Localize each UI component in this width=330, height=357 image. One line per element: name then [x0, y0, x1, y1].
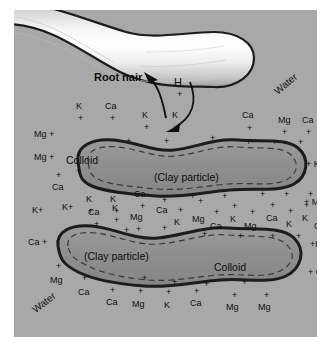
upper-clay-particle [78, 140, 306, 197]
ion-label: Mg [192, 215, 205, 224]
ion-charge-sign: + [308, 190, 313, 199]
ion-charge-sign: + [78, 114, 83, 123]
ion-charge-sign: + [232, 291, 237, 300]
ion-label: Mg + [34, 130, 54, 139]
ion-label: K [112, 204, 118, 213]
ion-charge-sign: + [222, 192, 227, 201]
ion-label: Ca [105, 102, 117, 111]
ion-charge-sign: + [144, 123, 149, 132]
ion-label: K [230, 215, 236, 224]
ion-label: K [302, 214, 308, 223]
ion-charge-sign: + [178, 206, 183, 215]
ion-charge-sign: + [174, 125, 179, 134]
ion-charge-sign: + [270, 201, 275, 210]
ion-charge-sign: + [198, 197, 203, 206]
ion-label: Ca [156, 206, 168, 215]
ion-label: Mg [278, 116, 291, 125]
ion-charge-sign: + [214, 208, 219, 217]
ion-charge-sign: + [190, 192, 195, 201]
ion-label: K [86, 195, 92, 204]
ion-charge-sign: + [272, 138, 277, 147]
hydrogen-charge: + [177, 90, 182, 99]
clay-particle-label-upper: (Clay particle) [154, 172, 219, 183]
ion-charge-sign: + [126, 137, 131, 146]
ion-label: Mg [226, 303, 239, 312]
ion-charge-sign: + [204, 280, 209, 289]
ion-charge-sign: + [166, 288, 171, 297]
ion-charge-sign: + [210, 134, 215, 143]
ion-charge-sign: + [56, 262, 61, 271]
ion-label: Ca [88, 208, 100, 217]
ion-charge-sign: + [260, 190, 265, 199]
ion-charge-sign: + [284, 190, 289, 199]
ion-label: Ca [78, 288, 90, 297]
ion-label: Ca [242, 111, 254, 120]
ion-label: Mg [50, 276, 63, 285]
ion-charge-sign: + [110, 114, 115, 123]
ion-charge-sign: + [140, 202, 145, 211]
ion-label: Ca [106, 298, 118, 307]
root-hair-label: Root hair [94, 72, 142, 83]
ion-label: K [164, 301, 170, 310]
ion-charge-sign: + [306, 128, 311, 137]
ion-charge-sign: + [238, 232, 243, 241]
ion-label: Ca + [28, 238, 47, 247]
ion-label: K [172, 111, 178, 120]
ion-label: K [174, 218, 180, 227]
ion-label: Mg [258, 303, 271, 312]
ion-charge-sign: + [202, 230, 207, 239]
ion-charge-sign: + [94, 220, 99, 229]
ion-charge-sign: + [82, 274, 87, 283]
ion-charge-sign: + [232, 202, 237, 211]
colloid-label-lower: Colloid [214, 262, 246, 273]
clay-particle-label-lower: (Clay particle) [84, 251, 149, 262]
ion-label: K+ [62, 203, 73, 212]
ion-label: Ca [266, 214, 278, 223]
ion-label: Mg [132, 300, 145, 309]
ion-label: Ca [210, 222, 222, 231]
ion-charge-sign: + [136, 225, 141, 234]
ion-label: K [142, 111, 148, 120]
ion-label: Mg [130, 213, 143, 222]
ion-charge-sign: + [162, 196, 167, 205]
ion-charge-sign: + [114, 216, 119, 225]
ion-label: Mg + [34, 153, 54, 162]
soil-diagram-panel: Root hair H + Water Water Colloid (Clay … [14, 10, 317, 337]
ion-charge-sign: + [247, 124, 252, 133]
ion-label: +K [310, 240, 317, 249]
ion-charge-sign: + [110, 286, 115, 295]
ion-charge-sign: + [162, 224, 167, 233]
ion-label: K+ [32, 206, 43, 215]
ion-charge-sign: + [264, 291, 269, 300]
ion-charge-sign: + [194, 287, 199, 296]
ion-charge-sign: + [246, 138, 251, 147]
ion-label: Ca [52, 183, 64, 192]
ion-charge-sign: + [298, 138, 303, 147]
ion-charge-sign: + [172, 278, 177, 287]
ion-label: + Ca [308, 268, 317, 277]
figure-canvas: Root hair H + Water Water Colloid (Clay … [0, 0, 330, 357]
ion-charge-sign: + [296, 232, 301, 241]
ion-charge-sign: + [270, 232, 275, 241]
ion-label: K [286, 220, 292, 229]
ion-charge-sign: + [282, 128, 287, 137]
ion-charge-sign: + [76, 167, 81, 176]
ion-charge-sign: + [138, 287, 143, 296]
colloid-label-upper: Colloid [66, 155, 98, 166]
ion-label: Ca [302, 116, 314, 125]
ion-charge-sign: + [164, 137, 169, 146]
ion-label: Ca [314, 222, 317, 231]
ion-charge-sign: + [124, 226, 129, 235]
ion-label: K [76, 102, 82, 111]
ion-charge-sign: + [142, 274, 147, 283]
ion-charge-sign: + [56, 171, 61, 180]
ion-label: Ca [190, 299, 202, 308]
ion-charge-sign: + [242, 278, 247, 287]
ion-label: Mg [244, 222, 257, 231]
ion-charge-sign: + [304, 201, 309, 210]
ion-charge-sign: + [288, 207, 293, 216]
hydrogen-label: H [174, 76, 182, 88]
ion-label: Ca [134, 190, 146, 199]
ion-label: + K [306, 160, 317, 169]
ion-charge-sign: + [250, 208, 255, 217]
